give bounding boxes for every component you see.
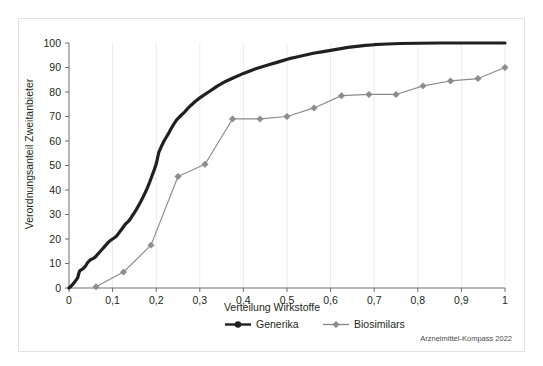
axis-ticks — [65, 43, 505, 292]
y-tick-label: 100 — [43, 37, 61, 49]
data-point-marker — [284, 113, 290, 119]
data-point-marker — [447, 78, 453, 84]
legend-item-generika[interactable]: Generika — [225, 318, 299, 330]
y-tick-label: 90 — [49, 61, 61, 73]
data-point-marker — [393, 91, 399, 97]
x-tick-label: 0,8 — [410, 294, 425, 306]
data-point-marker — [502, 64, 508, 70]
y-axis-title: Verordnungsanteil Zweitanbieter — [23, 78, 35, 229]
x-tick-label: 0,2 — [149, 294, 164, 306]
chart-card: 00,10,20,30,40,50,60,70,80,91 0102030405… — [18, 18, 525, 352]
x-tick-label: 0,3 — [192, 294, 207, 306]
line-chart: 00,10,20,30,40,50,60,70,80,91 0102030405… — [19, 19, 524, 351]
x-tick-label: 1 — [502, 294, 508, 306]
data-point-marker — [475, 75, 481, 81]
data-point-marker — [257, 116, 263, 122]
y-tick-label: 70 — [49, 110, 61, 122]
data-point-marker — [338, 92, 344, 98]
x-tick-label: 0,1 — [105, 294, 120, 306]
y-tick-label: 0 — [55, 282, 61, 294]
legend-marker-circle-icon — [235, 321, 241, 327]
x-axis-title: Verteilung Wirkstoffe — [224, 301, 320, 313]
x-tick-label: 0,7 — [367, 294, 382, 306]
data-point-marker — [175, 173, 181, 179]
series-line — [96, 68, 505, 287]
y-tick-label: 50 — [49, 159, 61, 171]
data-point-marker — [420, 83, 426, 89]
legend-label: Generika — [256, 318, 299, 330]
legend-item-biosimilars[interactable]: Biosimilars — [323, 318, 405, 330]
data-point-marker — [311, 105, 317, 111]
x-tick-label: 0,6 — [323, 294, 338, 306]
data-point-marker — [93, 284, 99, 290]
y-tick-label: 30 — [49, 208, 61, 220]
y-tick-label: 60 — [49, 135, 61, 147]
data-point-marker — [202, 161, 208, 167]
data-point-marker — [366, 91, 372, 97]
source-credit: Arzneimittel-Kompass 2022 — [420, 334, 512, 343]
series-biosimilars — [93, 64, 508, 290]
legend-label: Biosimilars — [354, 318, 405, 330]
x-tick-label: 0 — [66, 294, 72, 306]
data-series — [69, 43, 508, 290]
chart-legend: GenerikaBiosimilars — [225, 318, 405, 330]
y-axis-tick-labels: 0102030405060708090100 — [43, 37, 61, 294]
data-point-marker — [229, 116, 235, 122]
y-tick-label: 80 — [49, 86, 61, 98]
x-tick-label: 0,9 — [454, 294, 469, 306]
gridlines — [113, 43, 505, 288]
y-tick-label: 10 — [49, 257, 61, 269]
legend-marker-diamond-icon — [333, 321, 339, 327]
y-tick-label: 20 — [49, 233, 61, 245]
y-tick-label: 40 — [49, 184, 61, 196]
